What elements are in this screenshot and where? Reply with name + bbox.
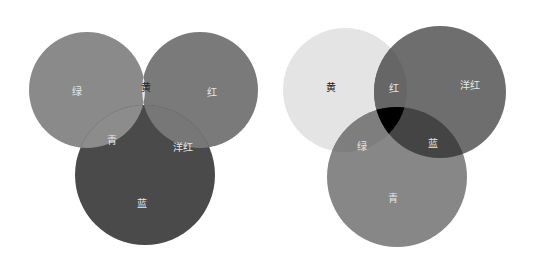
region-label: 红 — [207, 86, 217, 98]
additive-venn-diagram: 绿黄红青洋红蓝 — [29, 32, 258, 245]
subtractive-venn-diagram: 黄红洋红绿蓝青 — [283, 26, 506, 247]
region-label: 黄 — [326, 81, 336, 93]
region-label: 洋红 — [173, 141, 193, 153]
region-label: 蓝 — [428, 138, 438, 149]
region-label: 洋红 — [460, 79, 480, 91]
region-label: 蓝 — [137, 198, 147, 209]
region-label: 青 — [107, 134, 117, 146]
region-label: 青 — [388, 192, 398, 204]
region-label: 绿 — [357, 140, 367, 152]
venn-canvas: 绿黄红青洋红蓝 黄红洋红绿蓝青 — [0, 0, 539, 264]
region-label: 红 — [389, 82, 399, 94]
region-label: 绿 — [72, 85, 82, 97]
region-label: 黄 — [141, 81, 151, 93]
